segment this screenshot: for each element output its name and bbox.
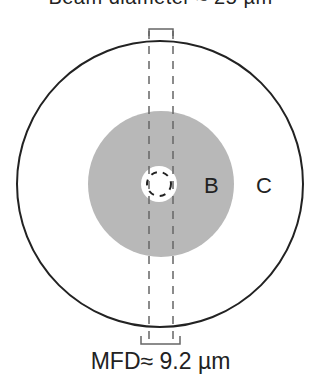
fiber-cross-section-diagram: Beam diameter ≈ 25 µm B C MFD≈ 9.2 µm [0,0,321,377]
region-c-label: C [256,173,272,199]
diagram-graphic [0,0,321,377]
region-b-label: B [204,173,219,199]
top-caption-clipped: Beam diameter ≈ 25 µm [0,0,321,9]
top-bracket [149,29,173,36]
bottom-bracket [141,336,180,344]
mfd-caption: MFD≈ 9.2 µm [0,348,321,375]
